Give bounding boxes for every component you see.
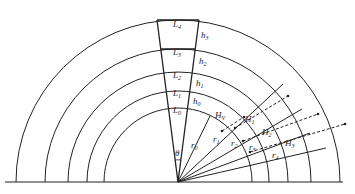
label-H1: H1 [244,114,255,125]
label-r0: r0 [191,140,198,151]
label-l1: L1 [172,88,181,99]
label-l0: L0 [172,105,181,116]
dim-line-h1 [235,96,288,128]
label-r2: r2 [231,138,238,149]
label-r3: r3 [249,142,256,153]
label-h2: h2 [199,56,207,67]
label-r1: r1 [213,134,220,145]
label-h3: h3 [201,30,209,41]
layer-diagram: L4 L3 L2 L1 L0 h3 h2 h1 h0 θ r0 r1 r2 r3… [0,0,355,194]
label-hv: HV [214,110,227,121]
label-theta: θ [175,148,180,158]
arc-layer-0 [104,108,252,182]
label-r4: r4 [272,150,279,161]
label-h0: h0 [193,96,201,107]
label-h1: h1 [196,78,204,89]
label-H2: H2 [261,127,272,138]
